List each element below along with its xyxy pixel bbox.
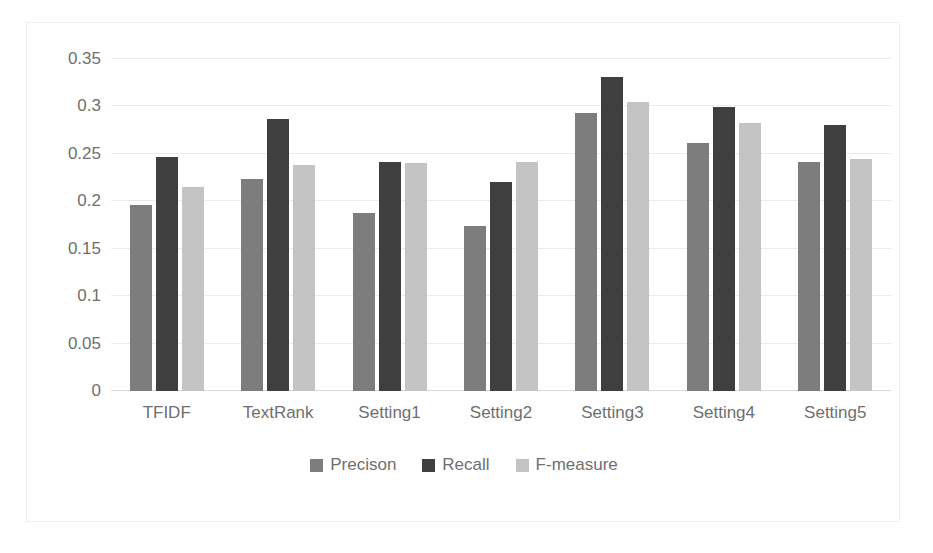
bar-group: [111, 59, 222, 391]
bar: [241, 179, 263, 391]
legend-item[interactable]: F-measure: [516, 455, 618, 475]
bar: [379, 162, 401, 391]
x-axis: TFIDFTextRankSetting1Setting2Setting3Set…: [111, 403, 891, 433]
y-axis-tick-label: 0.35: [47, 49, 101, 69]
y-axis-tick-label: 0.1: [47, 286, 101, 306]
bar-group: [557, 59, 668, 391]
legend-label: Recall: [442, 455, 489, 475]
y-axis-tick-label: 0.25: [47, 144, 101, 164]
bar-group: [780, 59, 891, 391]
bar: [293, 165, 315, 391]
legend-label: Precison: [330, 455, 396, 475]
bar: [850, 159, 872, 391]
chart-container: 00.050.10.150.20.250.30.35 TFIDFTextRank…: [26, 22, 900, 522]
y-axis-tick-label: 0.05: [47, 334, 101, 354]
bar-group: [445, 59, 556, 391]
y-axis-tick-label: 0.15: [47, 239, 101, 259]
y-axis-tick-label: 0: [47, 381, 101, 401]
bar: [130, 205, 152, 391]
bars-layer: [111, 59, 891, 391]
legend-item[interactable]: Recall: [422, 455, 489, 475]
x-axis-tick-label: TFIDF: [143, 403, 191, 423]
chart-legend: PrecisonRecallF-measure: [27, 455, 901, 475]
y-axis: 00.050.10.150.20.250.30.35: [41, 59, 101, 391]
legend-swatch-icon: [516, 459, 529, 472]
plot-area: [111, 59, 891, 391]
bar: [156, 157, 178, 391]
bar: [798, 162, 820, 391]
y-axis-tick-label: 0.2: [47, 191, 101, 211]
bar-group: [222, 59, 333, 391]
bar: [627, 102, 649, 391]
bar: [405, 163, 427, 391]
x-axis-tick-label: Setting1: [358, 403, 420, 423]
bar: [713, 107, 735, 391]
bar: [464, 226, 486, 391]
bar: [353, 213, 375, 391]
bar: [739, 123, 761, 391]
bar: [182, 187, 204, 391]
bar: [601, 77, 623, 391]
x-axis-tick-label: Setting4: [693, 403, 755, 423]
legend-item[interactable]: Precison: [310, 455, 396, 475]
bar: [575, 113, 597, 391]
bar: [267, 119, 289, 391]
bar: [516, 162, 538, 391]
bar: [824, 125, 846, 391]
bar-group: [334, 59, 445, 391]
bar: [687, 143, 709, 391]
x-axis-tick-label: Setting5: [804, 403, 866, 423]
x-axis-tick-label: Setting2: [470, 403, 532, 423]
bar-group: [668, 59, 779, 391]
legend-label: F-measure: [536, 455, 618, 475]
legend-swatch-icon: [422, 459, 435, 472]
x-axis-tick-label: Setting3: [581, 403, 643, 423]
bar: [490, 182, 512, 391]
legend-swatch-icon: [310, 459, 323, 472]
y-axis-tick-label: 0.3: [47, 96, 101, 116]
x-axis-tick-label: TextRank: [243, 403, 314, 423]
